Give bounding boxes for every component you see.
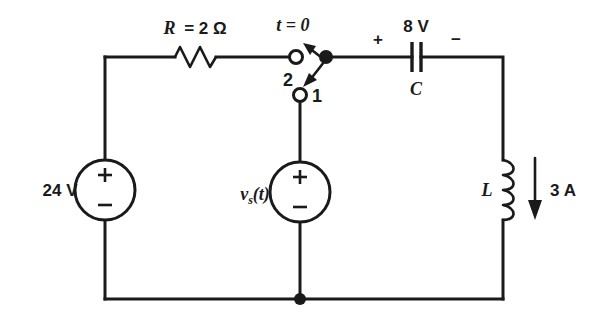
circuit-diagram: R = 2 Ω t = 0 2 1 + 8 V − C 24 V vs(t) L… [0, 0, 599, 321]
current-3a-label: 3 A [550, 181, 576, 200]
switch-time-text: t = 0 [276, 15, 309, 35]
resistor-value-text: 2 Ω [199, 19, 227, 38]
capacitor-label: C [410, 79, 423, 99]
source-vs-arg-text: (t) [253, 184, 270, 205]
capacitor-plus-label: + [373, 30, 383, 49]
capacitor-minus-label: − [451, 30, 461, 49]
capacitor-voltage-label: 8 V [403, 17, 429, 36]
junction-node-bottom [294, 293, 306, 305]
current-arrow-3a [528, 158, 542, 220]
inductor-label: L [481, 180, 493, 200]
current-arrow-head [528, 200, 542, 220]
resistor-symbol-text: R [162, 18, 175, 38]
resistor-label: R = 2 Ω [162, 18, 226, 38]
source-24v-symbol [75, 160, 135, 220]
resistor-zigzag [175, 47, 216, 67]
switch-terminal-2-ring[interactable] [290, 51, 303, 64]
circuit-schematic-canvas: R = 2 Ω t = 0 2 1 + 8 V − C 24 V vs(t) L… [0, 0, 599, 321]
source-24v-label: 24 V [43, 181, 79, 200]
switch-blade-arrow[interactable] [303, 43, 324, 87]
switch-terminal-2-label: 2 [283, 70, 293, 90]
source-vs-symbol [270, 162, 330, 222]
switch-terminal-1-ring[interactable] [294, 89, 307, 102]
capacitor-symbol [412, 42, 421, 72]
switch-terminal-1-label: 1 [312, 86, 322, 106]
source-vs-label: vs(t) [240, 184, 270, 207]
inductor-coil [503, 160, 514, 220]
switch-time-label: t = 0 [276, 15, 309, 35]
wire-capacitor-to-inductor [421, 57, 503, 160]
